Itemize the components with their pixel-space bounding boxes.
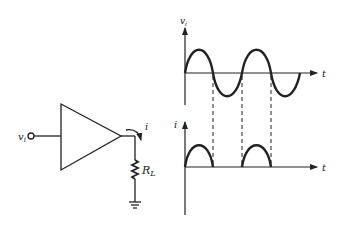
amplifier-triangle — [61, 104, 121, 170]
dashed-guides — [213, 76, 271, 167]
load-resistor — [132, 160, 138, 179]
current-arrow-icon — [126, 130, 141, 140]
top-xlabel: t — [322, 68, 327, 79]
current-label: i — [145, 121, 148, 132]
input-label: vi — [18, 131, 26, 144]
bottom-pulse-1 — [185, 145, 213, 167]
graph-bottom — [185, 122, 317, 215]
top-ylabel: vi — [180, 16, 187, 27]
bottom-xlabel: t — [322, 162, 327, 173]
diagram-svg: vi i RL vi t i t — [0, 0, 343, 229]
ground-icon — [129, 202, 141, 208]
input-terminal — [28, 133, 34, 139]
diagram-canvas: vi i RL vi t i t — [0, 0, 343, 229]
bottom-pulse-2 — [242, 145, 271, 167]
load-label: RL — [141, 164, 156, 178]
amplifier-circuit — [28, 104, 141, 208]
bottom-ylabel: i — [174, 119, 177, 130]
graph-top — [185, 28, 317, 105]
